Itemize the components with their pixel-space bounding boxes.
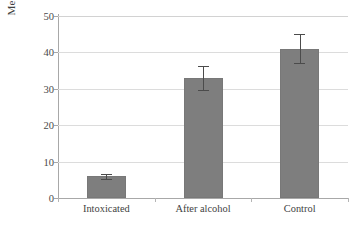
y-tick-label-0: 0	[14, 193, 54, 204]
y-tick-label-30: 30	[14, 83, 54, 94]
y-tick-label-40: 40	[14, 47, 54, 58]
error-bar-cap-0-upper	[101, 174, 112, 175]
bar-after-alcohol	[184, 78, 223, 198]
bar-control	[280, 49, 319, 198]
y-tick-label-10: 10	[14, 156, 54, 167]
error-bar-stem-2	[300, 34, 301, 63]
x-category-label-control: Control	[251, 203, 348, 214]
y-tick-mark-20	[54, 125, 58, 126]
gridline-50	[58, 16, 348, 17]
x-tick-mark-3	[348, 198, 349, 202]
y-tick-label-50: 50	[14, 11, 54, 22]
error-bar-cap-2-lower	[294, 63, 305, 64]
x-category-label-after-alcohol: After alcohol	[155, 203, 252, 214]
y-tick-mark-50	[54, 16, 58, 17]
y-tick-mark-10	[54, 162, 58, 163]
x-category-label-intoxicated: Intoxicated	[58, 203, 155, 214]
error-bar-stem-1	[203, 66, 204, 89]
x-axis-line	[58, 198, 349, 199]
y-tick-mark-30	[54, 89, 58, 90]
error-bar-cap-1-upper	[198, 66, 209, 67]
y-tick-label-20: 20	[14, 120, 54, 131]
error-bar-cap-1-lower	[198, 90, 209, 91]
x-tick-mark-0	[58, 198, 59, 202]
y-tick-mark-40	[54, 52, 58, 53]
x-tick-mark-1	[155, 198, 156, 202]
bar-chart: Mean time off treadmill in seconds 01020…	[0, 0, 357, 230]
error-bar-cap-2-upper	[294, 34, 305, 35]
y-axis-tick-labels: 01020304050	[10, 16, 54, 198]
error-bar-cap-0-lower	[101, 179, 112, 180]
plot-area	[58, 16, 348, 198]
x-tick-mark-2	[251, 198, 252, 202]
